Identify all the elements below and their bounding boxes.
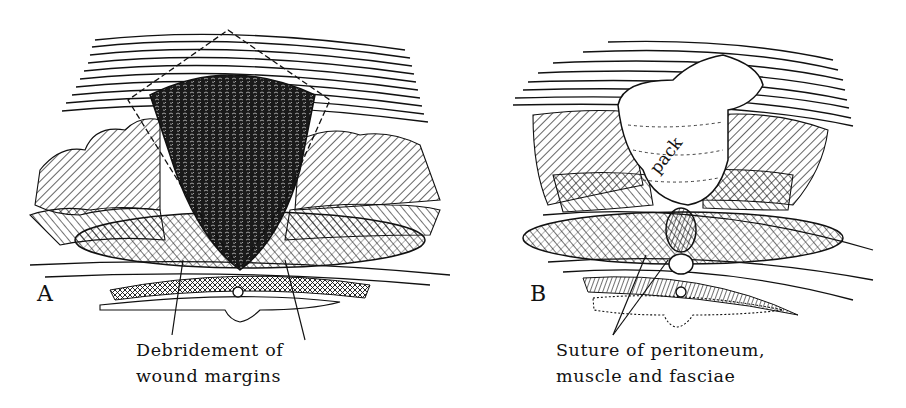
figure-panel-a: A Debridement of wound margins bbox=[0, 0, 453, 408]
peritoneum-suture-loop bbox=[669, 254, 693, 274]
panel-label-b: B bbox=[530, 281, 546, 306]
caption-a: Debridement of wound margins bbox=[136, 337, 283, 389]
muscle-suture-loop bbox=[666, 208, 696, 252]
figure-panel-b: pack B Suture of peritoneum, muscle and … bbox=[453, 0, 906, 408]
panel-label-a: A bbox=[37, 281, 53, 306]
caption-a-line-2: wound margins bbox=[136, 363, 283, 389]
leader-line-left bbox=[172, 260, 183, 335]
peritoneum-layer bbox=[583, 277, 798, 315]
leader-line-2 bbox=[613, 260, 668, 335]
caption-b-line-1: Suture of peritoneum, bbox=[556, 337, 765, 363]
caption-a-line-1: Debridement of bbox=[136, 337, 283, 363]
leader-line-right bbox=[285, 260, 305, 340]
leader-line-1 bbox=[613, 255, 646, 335]
caption-b: Suture of peritoneum, muscle and fasciae bbox=[556, 337, 765, 389]
caption-b-line-2: muscle and fasciae bbox=[556, 363, 765, 389]
bowel-surface bbox=[100, 297, 340, 322]
